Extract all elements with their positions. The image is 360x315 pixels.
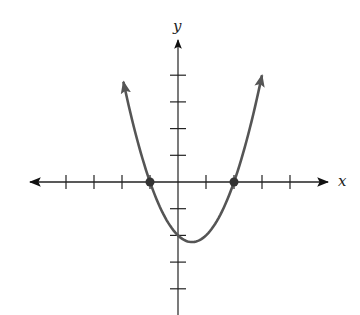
- x-intercept-point: [230, 178, 239, 187]
- y-axis-label: y: [172, 17, 182, 35]
- y-axis: y: [170, 17, 186, 315]
- x-axis: x: [30, 172, 347, 190]
- parabola-graph: x y: [0, 0, 360, 315]
- parabola-curve: [123, 75, 262, 242]
- x-intercept-point: [146, 178, 155, 187]
- x-axis-label: x: [338, 172, 347, 190]
